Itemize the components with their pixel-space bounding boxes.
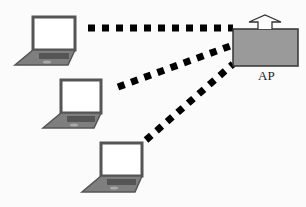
ap-label: AP: [258, 68, 275, 84]
laptop-3-icon: [82, 143, 142, 192]
wireless-links: [88, 28, 233, 140]
access-point: [233, 15, 298, 66]
laptop-1-icon: [15, 17, 75, 65]
link-laptop-2: [118, 45, 233, 87]
network-diagram: [0, 0, 306, 207]
antenna-arrow-icon: [249, 15, 281, 29]
laptop-2-icon: [43, 80, 101, 128]
ap-box: [233, 29, 298, 66]
